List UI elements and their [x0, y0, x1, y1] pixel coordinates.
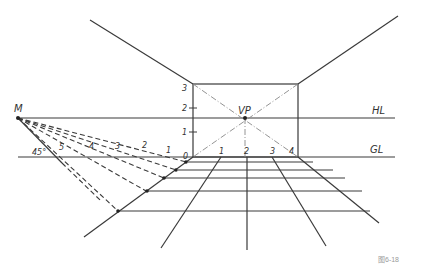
measure-line-1	[18, 118, 176, 170]
ceiling-right-edge	[298, 16, 398, 84]
gl-label: GL	[370, 144, 383, 155]
perspective-diagram: VP HL GL M 45° 0 1 2 3 1 2 3 4 1 2 3 4 5…	[0, 0, 421, 279]
mscale-2: 2	[142, 141, 147, 150]
mscale-5: 5	[59, 143, 64, 152]
measure-line-4	[18, 118, 118, 211]
intersect-4	[145, 189, 149, 193]
figure-caption: 图6-18	[378, 256, 399, 264]
vscale-0: 0	[183, 152, 188, 161]
m-point	[16, 116, 20, 120]
floor-line-1	[161, 157, 221, 248]
gscale-2: 2	[244, 147, 249, 156]
angle-label: 45°	[32, 148, 46, 157]
hl-label: HL	[372, 105, 385, 116]
vp-point	[243, 116, 247, 120]
mscale-3: 3	[115, 142, 120, 151]
gscale-4: 4	[289, 147, 294, 156]
intersect-5	[116, 209, 120, 213]
intersect-3	[162, 176, 166, 180]
vscale-1: 1	[182, 128, 187, 137]
vscale-2: 2	[182, 104, 187, 113]
gscale-1: 1	[219, 147, 224, 156]
intersect-2	[174, 168, 178, 172]
measure-line-5	[62, 163, 100, 200]
vp-label: VP	[238, 105, 252, 116]
mscale-1: 1	[166, 146, 171, 155]
vscale-3: 3	[182, 84, 187, 93]
ceiling-left-edge	[90, 20, 193, 84]
mscale-4: 4	[89, 142, 94, 151]
gscale-3: 3	[270, 147, 275, 156]
floor-right-edge	[298, 157, 379, 223]
m-label: M	[14, 103, 23, 114]
